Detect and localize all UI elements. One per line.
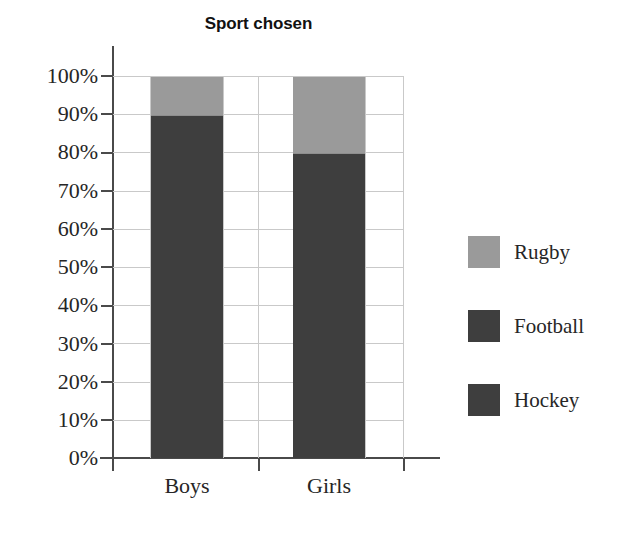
bar-boys-segment-football[interactable] — [151, 115, 223, 210]
y-tick-label-20: 20% — [18, 371, 98, 393]
rugby-swatch-icon — [468, 236, 500, 268]
x-tick-label-boys: Boys — [127, 474, 247, 498]
y-tick-label-100: 100% — [18, 65, 98, 87]
legend-label-rugby: Rugby — [514, 239, 570, 265]
y-tick-label-50: 50% — [18, 256, 98, 278]
plot-area — [113, 76, 404, 458]
y-tick-label-70: 70% — [18, 180, 98, 202]
y-tick-label-0: 0% — [18, 447, 98, 469]
x-tick-mark-middle — [258, 457, 260, 471]
legend-item-hockey[interactable]: Hockey — [468, 384, 618, 416]
bar-boys-segment-hockey[interactable] — [151, 210, 223, 458]
chart-title: Sport chosen — [113, 14, 404, 34]
y-tick-label-60: 60% — [18, 218, 98, 240]
bar-girls-segment-football[interactable] — [293, 153, 365, 325]
football-swatch-icon — [468, 310, 500, 342]
vgridline-2 — [223, 76, 224, 458]
legend-item-rugby[interactable]: Rugby — [468, 236, 618, 268]
x-tick-mark-left — [112, 457, 114, 471]
x-tick-mark-right — [403, 457, 405, 471]
legend-label-hockey: Hockey — [514, 387, 579, 413]
bar-boys-segment-rugby[interactable] — [151, 77, 223, 115]
bar-boys[interactable] — [151, 77, 223, 458]
chart-figure: Sport chosen 100% 90% 80% 70% 60% 50% 40… — [0, 0, 625, 534]
legend-label-football: Football — [514, 313, 584, 339]
y-tick-label-40: 40% — [18, 294, 98, 316]
vgridline-5 — [365, 76, 366, 458]
hockey-swatch-icon — [468, 384, 500, 416]
bar-girls-segment-rugby[interactable] — [293, 77, 365, 153]
legend-item-football[interactable]: Football — [468, 310, 618, 342]
vgridline-3 — [258, 76, 259, 458]
x-tick-label-girls: Girls — [269, 474, 389, 498]
y-tick-label-90: 90% — [18, 103, 98, 125]
y-axis-tick-labels: 100% 90% 80% 70% 60% 50% 40% 30% 20% 10%… — [10, 0, 98, 534]
vgridline-6 — [403, 76, 404, 458]
y-tick-label-80: 80% — [18, 141, 98, 163]
y-tick-label-30: 30% — [18, 333, 98, 355]
bar-girls[interactable] — [293, 77, 365, 458]
bar-girls-segment-hockey[interactable] — [293, 325, 365, 458]
y-tick-label-10: 10% — [18, 409, 98, 431]
